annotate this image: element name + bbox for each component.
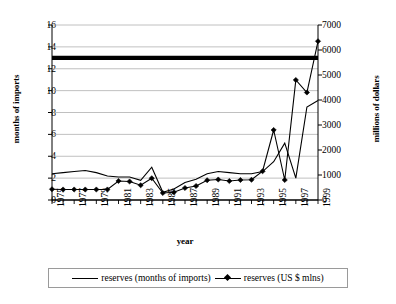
x-tick-label: 1997 bbox=[300, 188, 310, 207]
diamond-line-swatch-icon bbox=[215, 275, 241, 282]
series-line-1 bbox=[52, 100, 318, 192]
x-tick-label: 1999 bbox=[322, 188, 332, 207]
series-line-2 bbox=[52, 41, 318, 193]
data-point-marker bbox=[293, 77, 298, 82]
y-tick-label-right: 6000 bbox=[322, 45, 362, 55]
data-point-marker bbox=[315, 39, 320, 44]
legend-item-reserves-usd: reserves (US $ mlns) bbox=[215, 273, 324, 283]
data-point-marker bbox=[72, 187, 77, 192]
x-tick-label: 1979 bbox=[100, 188, 110, 207]
y-tick-label-left: 14 bbox=[16, 42, 56, 52]
x-tick-label: 1985 bbox=[167, 188, 177, 207]
y-tick-label-right: 7000 bbox=[322, 20, 362, 30]
y-tick-label-right: 4000 bbox=[322, 95, 362, 105]
y-tick-label-right: 5000 bbox=[322, 70, 362, 80]
chart-figure: months of imports millions of dollars ye… bbox=[0, 0, 396, 304]
data-point-marker bbox=[127, 179, 132, 184]
data-point-marker bbox=[216, 177, 221, 182]
x-tick-label: 1981 bbox=[123, 188, 133, 207]
chart-legend: reserves (months of imports) reserves (U… bbox=[48, 268, 348, 288]
y-tick-label-left: 4 bbox=[16, 151, 56, 161]
line-swatch-icon bbox=[72, 278, 98, 279]
x-tick-label: 1989 bbox=[211, 188, 221, 207]
data-point-marker bbox=[116, 178, 121, 183]
legend-item-reserves-months: reserves (months of imports) bbox=[72, 273, 211, 283]
y-tick-label-left: 16 bbox=[16, 20, 56, 30]
x-tick-label: 1995 bbox=[278, 188, 288, 207]
data-point-marker bbox=[260, 169, 265, 174]
x-tick-label: 1993 bbox=[256, 188, 266, 207]
y-tick-label-right: 3000 bbox=[322, 120, 362, 130]
x-axis-title: year bbox=[60, 236, 310, 246]
x-tick-label: 1975 bbox=[56, 188, 66, 207]
y-tick-label-left: 2 bbox=[16, 173, 56, 183]
data-point-marker bbox=[227, 178, 232, 183]
data-point-marker bbox=[238, 177, 243, 182]
data-point-marker bbox=[149, 176, 154, 181]
y-tick-label-left: 0 bbox=[16, 195, 56, 205]
data-point-marker bbox=[160, 190, 165, 195]
y-tick-label-left: 8 bbox=[16, 108, 56, 118]
data-point-marker bbox=[271, 127, 276, 132]
data-point-marker bbox=[304, 90, 309, 95]
data-point-marker bbox=[205, 178, 210, 183]
y-tick-label-right: 1000 bbox=[322, 170, 362, 180]
data-point-marker bbox=[282, 177, 287, 182]
y-tick-label-right: 2000 bbox=[322, 145, 362, 155]
x-tick-label: 1983 bbox=[145, 188, 155, 207]
data-point-marker bbox=[94, 187, 99, 192]
x-tick-label: 1987 bbox=[189, 188, 199, 207]
x-tick-label: 1977 bbox=[78, 188, 88, 207]
y-tick-label-left: 6 bbox=[16, 129, 56, 139]
data-point-marker bbox=[249, 177, 254, 182]
y-tick-label-left: 10 bbox=[16, 86, 56, 96]
x-tick-label: 1991 bbox=[233, 188, 243, 207]
data-point-marker bbox=[49, 187, 54, 192]
y-axis-right-title: millions of dollars bbox=[371, 49, 381, 169]
data-point-marker bbox=[182, 185, 187, 190]
y-tick-label-left: 12 bbox=[16, 64, 56, 74]
data-point-marker bbox=[138, 183, 143, 188]
legend-label-reserves-usd: reserves (US $ mlns) bbox=[244, 273, 324, 283]
legend-label-reserves-months: reserves (months of imports) bbox=[101, 273, 211, 283]
